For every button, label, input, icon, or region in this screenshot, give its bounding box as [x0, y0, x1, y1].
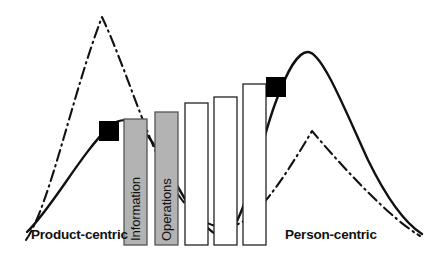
bar-operations: Operations: [155, 112, 178, 245]
diagram-svg: Information Operations: [0, 0, 438, 261]
marker-right: [266, 77, 286, 97]
label-person-centric: Person-centric: [285, 228, 377, 242]
label-product-centric: Product-centric: [31, 228, 128, 242]
bar-5: [243, 84, 266, 245]
marker-left: [99, 121, 119, 141]
bar-information-label: Information: [128, 177, 143, 241]
diagram-canvas: Information Operations Product-centric P…: [0, 0, 438, 261]
bar-operations-label: Operations: [159, 178, 174, 241]
bar-5-rect: [243, 84, 266, 245]
bar-4-rect: [214, 97, 237, 245]
bar-3: [185, 103, 208, 245]
bar-3-rect: [185, 103, 208, 245]
bar-4: [214, 97, 237, 245]
